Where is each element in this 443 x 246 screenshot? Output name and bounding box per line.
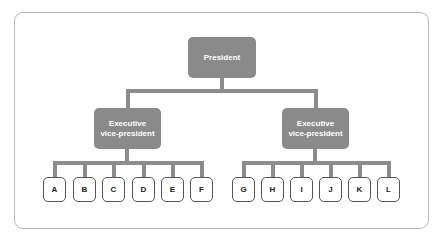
leaf-E: E — [161, 177, 184, 202]
connector-vp-horizontal — [126, 89, 318, 93]
drop-C — [112, 161, 116, 178]
right-vp-label-line2: vice-president — [288, 129, 342, 139]
left-vp-node: Executive vice-president — [94, 108, 161, 149]
right-vp-node: Executive vice-president — [282, 108, 349, 149]
drop-H — [271, 161, 275, 178]
leaf-D: D — [132, 177, 155, 202]
leaf-L: L — [377, 177, 400, 202]
leaf-I: I — [290, 177, 313, 202]
drop-K — [358, 161, 362, 178]
connector-left-vp-up — [126, 89, 130, 109]
drop-A — [53, 161, 57, 178]
drop-L — [387, 161, 391, 178]
leaf-H: H — [261, 177, 284, 202]
right-vp-label-line1: Executive — [297, 119, 334, 129]
connector-right-leaves-horizontal — [242, 161, 391, 165]
leaf-G: G — [232, 177, 255, 202]
president-label: President — [204, 53, 240, 63]
connector-right-vp-up — [314, 89, 318, 109]
leaf-F: F — [190, 177, 213, 202]
drop-B — [83, 161, 87, 178]
connector-left-leaves-horizontal — [53, 161, 203, 165]
president-node: President — [188, 37, 256, 78]
leaf-J: J — [319, 177, 342, 202]
drop-J — [329, 161, 333, 178]
leaf-A: A — [43, 177, 66, 202]
leaf-C: C — [102, 177, 125, 202]
drop-D — [142, 161, 146, 178]
left-vp-label-line2: vice-president — [100, 129, 154, 139]
drop-E — [171, 161, 175, 178]
drop-I — [300, 161, 304, 178]
drop-G — [242, 161, 246, 178]
leaf-K: K — [348, 177, 371, 202]
left-vp-label-line1: Executive — [109, 119, 146, 129]
leaf-B: B — [73, 177, 96, 202]
drop-F — [200, 161, 204, 178]
